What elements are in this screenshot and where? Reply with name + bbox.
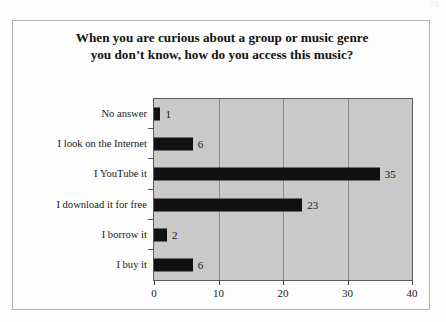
bar <box>154 228 167 241</box>
bar <box>154 138 193 151</box>
y-axis-tick <box>148 128 153 129</box>
x-axis-tick-label: 20 <box>278 287 289 299</box>
bar <box>154 108 160 121</box>
bar <box>154 258 193 271</box>
bar-value-label: 2 <box>172 229 178 241</box>
x-axis-tick <box>154 281 155 285</box>
chart-title-line-2: you don’t know, how do you access this m… <box>33 46 411 63</box>
bar-row: 23 <box>154 190 412 220</box>
category-label: No answer <box>101 108 147 119</box>
bar <box>154 168 380 181</box>
page-number: 76 <box>430 0 440 9</box>
x-axis-tick <box>283 281 284 285</box>
figure-container: When you are curious about a group or mu… <box>12 20 430 310</box>
y-axis-tick <box>148 219 153 220</box>
chart-title: When you are curious about a group or mu… <box>33 29 411 63</box>
x-axis-tick <box>348 281 349 285</box>
x-axis-tick-label: 30 <box>342 287 353 299</box>
category-label: I look on the Internet <box>58 138 147 149</box>
plot-area: 16352326 <box>153 98 413 281</box>
bar-value-label: 6 <box>198 138 204 150</box>
bar-row: 35 <box>154 159 412 189</box>
bar-row: 6 <box>154 129 412 159</box>
category-label: I download it for free <box>56 198 147 209</box>
x-axis-tick-label: 10 <box>213 287 224 299</box>
bar-value-label: 1 <box>165 108 171 120</box>
y-axis-tick <box>148 249 153 250</box>
y-axis-tick <box>148 189 153 190</box>
y-axis-tick <box>148 158 153 159</box>
x-axis-tick <box>412 281 413 285</box>
bar-row: 6 <box>154 250 412 280</box>
category-label: I buy it <box>116 258 147 269</box>
bar-row: 2 <box>154 220 412 250</box>
bar-value-label: 6 <box>198 259 204 271</box>
category-label: I borrow it <box>102 228 147 239</box>
bar-value-label: 23 <box>307 199 318 211</box>
scanned-page: 76 When you are curious about a group or… <box>0 0 446 322</box>
bar <box>154 198 302 211</box>
x-axis-tick <box>219 281 220 285</box>
x-axis-tick-label: 0 <box>151 287 157 299</box>
chart-title-line-1: When you are curious about a group or mu… <box>33 29 411 46</box>
category-label: I YouTube it <box>94 168 147 179</box>
bar-value-label: 35 <box>385 168 396 180</box>
x-axis-tick-label: 40 <box>407 287 418 299</box>
category-axis-labels: No answerI look on the InternetI YouTube… <box>13 98 149 281</box>
bar-row: 1 <box>154 99 412 129</box>
